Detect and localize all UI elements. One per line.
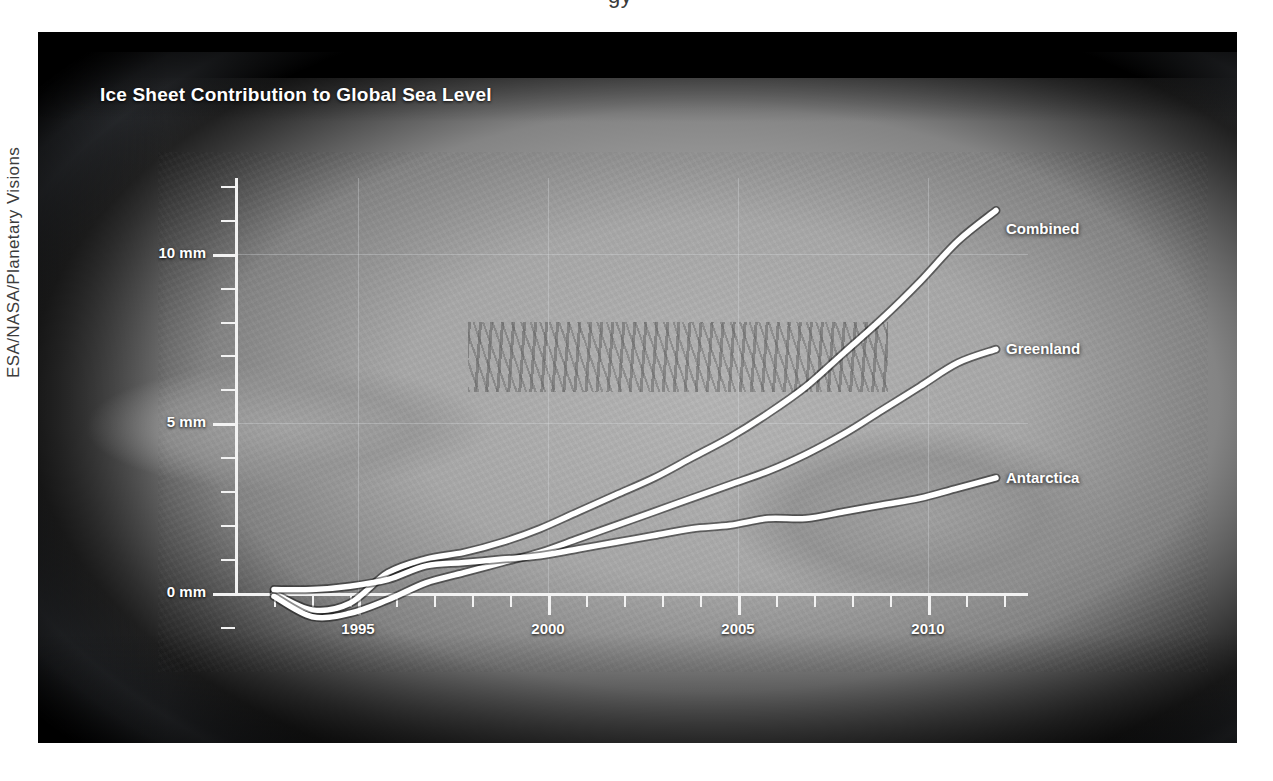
series-label-greenland: Greenland: [1006, 340, 1080, 357]
image-credit: ESA/NASA/Planetary Visions: [4, 48, 24, 378]
figure-panel: Ice Sheet Contribution to Global Sea Lev…: [38, 32, 1237, 743]
plot-area: 0 mm 5 mm 10 mm 1995 2000 2005: [38, 32, 1237, 743]
top-cropped-text: gy: [0, 0, 1273, 16]
data-lines: [38, 32, 1237, 743]
top-partial-glyph: gy: [608, 0, 632, 9]
series-label-antarctica: Antarctica: [1006, 469, 1079, 486]
series-label-combined: Combined: [1006, 220, 1079, 237]
